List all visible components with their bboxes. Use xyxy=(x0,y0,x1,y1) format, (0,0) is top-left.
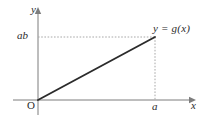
y-tick-label-ab: ab xyxy=(17,30,28,41)
function-line-g xyxy=(38,37,155,100)
origin-label: O xyxy=(27,100,35,111)
x-axis-label: x xyxy=(191,100,196,111)
x-tick-label-a: a xyxy=(152,101,158,112)
graph-figure: y x O ab a y = g(x) xyxy=(0,0,205,127)
curve-equation-label: y = g(x) xyxy=(153,23,190,34)
y-axis-label: y xyxy=(31,4,36,15)
